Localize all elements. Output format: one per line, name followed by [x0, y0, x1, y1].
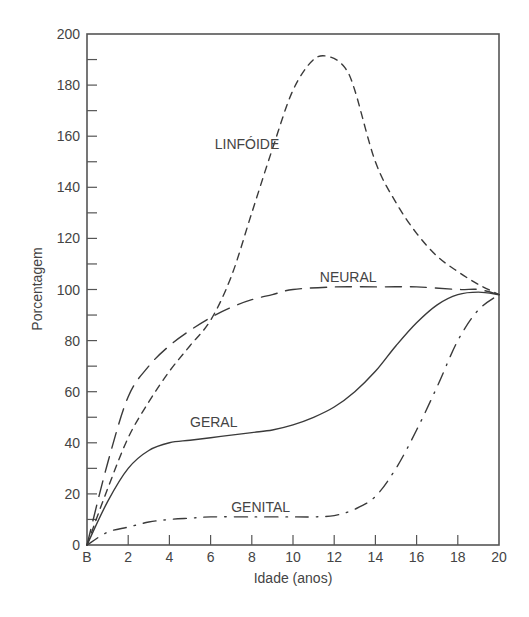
series-layer	[87, 56, 499, 545]
y-tick-label: 80	[64, 333, 80, 349]
series-labels: LINFÓIDENEURALGERALGENITAL	[190, 136, 377, 515]
x-tick-label: 18	[450, 549, 466, 565]
x-axis-title: Idade (anos)	[254, 570, 333, 586]
x-tick-label: 8	[248, 549, 256, 565]
y-tick-label: 160	[57, 128, 81, 144]
y-tick-label: 0	[72, 537, 80, 553]
series-label: GENITAL	[231, 499, 290, 515]
y-axis: 020406080100120140160180200	[57, 26, 97, 553]
x-tick-label: 16	[409, 549, 425, 565]
y-tick-label: 200	[57, 26, 81, 42]
series-line-geral	[87, 292, 499, 545]
y-tick-label: 60	[64, 384, 80, 400]
x-tick-label: 12	[326, 549, 342, 565]
series-line-neural	[87, 287, 499, 545]
growth-curves-chart: 020406080100120140160180200 B24681012141…	[0, 0, 529, 617]
y-tick-label: 140	[57, 179, 81, 195]
x-tick-label: 2	[124, 549, 132, 565]
series-line-linfoide	[87, 56, 499, 545]
y-tick-label: 120	[57, 230, 81, 246]
series-label: LINFÓIDE	[215, 136, 280, 152]
x-tick-label: 14	[368, 549, 384, 565]
y-tick-label: 20	[64, 486, 80, 502]
y-tick-label: 180	[57, 77, 81, 93]
x-tick-label: B	[82, 549, 91, 565]
x-tick-label: 20	[491, 549, 507, 565]
series-label: GERAL	[190, 414, 238, 430]
x-tick-label: 6	[207, 549, 215, 565]
x-tick-label: 4	[166, 549, 174, 565]
x-axis: B2468101214161820	[82, 535, 507, 565]
y-axis-title: Porcentagem	[29, 247, 45, 330]
y-tick-label: 40	[64, 435, 80, 451]
x-tick-label: 10	[285, 549, 301, 565]
series-line-genital	[87, 295, 499, 545]
series-label: NEURAL	[320, 269, 377, 285]
y-tick-label: 100	[57, 282, 81, 298]
